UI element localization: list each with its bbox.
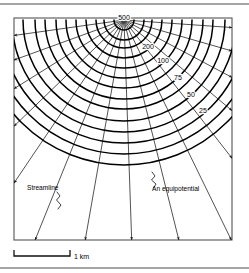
equipotential-value: 75 [174, 74, 182, 81]
equipotential-value: 25 [199, 107, 207, 114]
equipotential-value-label: 100100 [157, 57, 169, 64]
equipotential-value-label: 500500 [118, 14, 130, 21]
scale-bar-group: 1 km [14, 250, 89, 260]
scale-bar [14, 250, 70, 256]
equipotential-value: 50 [187, 91, 195, 98]
flow-net-canvas: 500500200200100100757550502525 Streamlin… [0, 0, 249, 273]
equipotential-value: 500 [118, 14, 130, 21]
flow-net-figure: 500500200200100100757550502525 Streamlin… [0, 0, 249, 273]
equipotential-value: 200 [142, 43, 154, 50]
equipotential-value-label: 200200 [142, 43, 154, 50]
scale-bar-label: 1 km [74, 253, 89, 260]
equipotential-value-label: 5050 [187, 91, 195, 98]
equipotential-value-label: 7575 [174, 74, 182, 81]
streamline-label: Streamline [27, 184, 59, 191]
equipotential-value: 100 [157, 57, 169, 64]
equipotential-label: An equipotential [152, 185, 200, 193]
equipotential-value-label: 2525 [199, 107, 207, 114]
